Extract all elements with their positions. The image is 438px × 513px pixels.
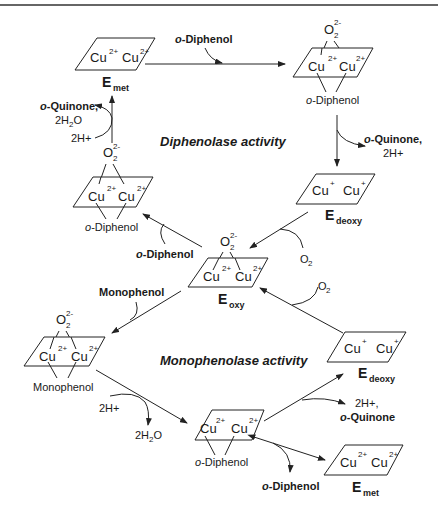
svg-text:Cu: Cu xyxy=(90,50,107,65)
svg-text:2+: 2+ xyxy=(58,344,67,353)
svg-text:2+: 2+ xyxy=(328,54,337,63)
svg-text:2H2O: 2H2O xyxy=(55,114,83,129)
reagent-o-quinone-left: o-Quinone, 2H2O xyxy=(40,100,98,129)
svg-text:Cu: Cu xyxy=(71,349,88,364)
svg-text:Cu: Cu xyxy=(88,189,105,204)
arrow-curve-o-diphenol-out-low xyxy=(273,443,290,472)
svg-text:E: E xyxy=(352,479,361,495)
svg-text:Cu: Cu xyxy=(371,455,388,470)
svg-text:2+: 2+ xyxy=(222,264,231,273)
svg-text:2+: 2+ xyxy=(89,344,98,353)
reagent-o-quinone-right: o-Quinone, 2H+ xyxy=(364,133,422,159)
svg-text:2+: 2+ xyxy=(140,47,149,56)
svg-text:2H+,: 2H+, xyxy=(355,397,379,409)
svg-text:+: + xyxy=(362,337,367,346)
svg-text:deoxy: deoxy xyxy=(369,374,395,384)
svg-text:Cu: Cu xyxy=(344,341,361,356)
svg-text:+: + xyxy=(394,337,399,346)
svg-text:E: E xyxy=(102,74,111,90)
svg-text:E: E xyxy=(325,207,334,223)
svg-text:Cu: Cu xyxy=(231,421,248,436)
svg-text:+: + xyxy=(330,179,335,188)
svg-text:E: E xyxy=(218,291,227,307)
svg-text:Cu: Cu xyxy=(203,269,220,284)
svg-text:2-: 2- xyxy=(113,142,120,151)
svg-text:Cu: Cu xyxy=(340,455,357,470)
svg-text:O: O xyxy=(220,234,230,249)
reagent-2h-low: 2H+ xyxy=(99,402,120,414)
svg-text:2+: 2+ xyxy=(253,264,262,273)
svg-text:o-Diphenol: o-Diphenol xyxy=(262,480,319,492)
svg-text:2-: 2- xyxy=(230,231,237,240)
arrow-curve-o2-in-mid xyxy=(280,229,303,248)
svg-text:deoxy: deoxy xyxy=(336,216,362,226)
svg-text:2-: 2- xyxy=(334,18,341,27)
svg-text:2+: 2+ xyxy=(358,450,367,459)
svg-text:2+: 2+ xyxy=(389,450,398,459)
svg-text:o-Diphenol: o-Diphenol xyxy=(175,33,232,45)
svg-text:o-Quinone: o-Quinone xyxy=(340,411,395,423)
svg-text:2+: 2+ xyxy=(137,184,146,193)
svg-text:Cu: Cu xyxy=(339,59,356,74)
state-oxy-diphenol-top: O 2 2- Cu 2+ Cu 2+ o-Diphenol xyxy=(293,18,373,106)
svg-text:Cu: Cu xyxy=(235,269,252,284)
svg-text:o-Diphenol: o-Diphenol xyxy=(306,94,359,106)
state-oxy-diphenol-left: O 2 2- Cu 2+ Cu 2+ o-Diphenol xyxy=(73,142,153,233)
state-e-deoxy-mid: Cu + Cu + E deoxy xyxy=(296,174,375,226)
svg-text:O: O xyxy=(56,312,66,327)
reagent-h-quinone-low: 2H+, o-Quinone xyxy=(340,397,395,423)
svg-text:2-: 2- xyxy=(66,309,73,318)
svg-text:Cu: Cu xyxy=(308,59,325,74)
svg-text:o-Diphenol: o-Diphenol xyxy=(85,221,138,233)
svg-text:Cu: Cu xyxy=(39,349,56,364)
svg-text:met: met xyxy=(113,83,129,93)
svg-text:o-Diphenol: o-Diphenol xyxy=(195,456,248,468)
svg-text:2: 2 xyxy=(113,154,118,163)
arrow-deoxy-low-to-oxy xyxy=(260,288,343,333)
arrow-deoxy-to-oxy xyxy=(250,212,308,248)
svg-text:Monophenol: Monophenol xyxy=(33,381,94,393)
arrow-oxy-monophenol-to-met-diphenol xyxy=(96,370,187,423)
svg-text:2: 2 xyxy=(308,259,313,268)
title-diphenolase-activity: Diphenolase activity xyxy=(160,134,286,149)
arrow-curve-monophenol-in xyxy=(130,302,137,320)
arrow-oxy-to-oxy-diphenol-left xyxy=(143,214,202,247)
arrow-met-diphenol-met-equilibrium xyxy=(254,437,325,460)
svg-text:oxy: oxy xyxy=(229,300,245,310)
arrow-curve-o-diphenol-in-left xyxy=(161,224,165,244)
title-monophenolase-activity: Monophenolase activity xyxy=(160,353,308,368)
reagent-2h-left: 2H+ xyxy=(71,132,92,144)
reagent-o-diphenol-left: o-Diphenol xyxy=(136,248,193,260)
state-e-oxy-center: O 2 2- Cu 2+ Cu 2+ E oxy xyxy=(188,231,268,310)
svg-text:Cu: Cu xyxy=(122,50,139,65)
svg-text:E: E xyxy=(358,365,367,381)
reagent-o-diphenol-top: o-Diphenol xyxy=(175,33,232,45)
state-met-diphenol-low: Cu 2+ Cu 2+ o-Diphenol xyxy=(195,410,264,468)
reagent-o2-low: O 2 xyxy=(318,280,331,295)
reagent-o-diphenol-low: o-Diphenol xyxy=(262,480,319,492)
svg-text:Cu: Cu xyxy=(200,421,217,436)
svg-text:2+: 2+ xyxy=(249,416,258,425)
svg-text:2H+: 2H+ xyxy=(383,147,404,159)
arrow-curve-o-quinone-out xyxy=(337,130,365,146)
svg-text:2+: 2+ xyxy=(356,54,365,63)
svg-text:2H2O: 2H2O xyxy=(135,429,163,444)
svg-text:Cu: Cu xyxy=(376,341,393,356)
arrow-curve-quinone-out-low xyxy=(302,399,345,404)
svg-text:met: met xyxy=(363,488,379,498)
svg-text:2: 2 xyxy=(66,321,71,330)
svg-text:o-Quinone,: o-Quinone, xyxy=(364,133,422,145)
state-e-met-low: Cu 2+ Cu 2+ E met xyxy=(324,445,403,498)
svg-text:2: 2 xyxy=(334,31,339,40)
state-oxy-monophenol: O 2 2- Cu 2+ Cu 2+ Monophenol xyxy=(24,309,105,393)
arrow-curve-o2-in-low xyxy=(292,287,318,305)
svg-text:Cu: Cu xyxy=(312,183,329,198)
reagent-h2o-low: 2H2O xyxy=(135,429,163,444)
tyrosinase-cycle-diagram: Cu 2+ Cu 2+ E met o-Diphenol O 2 2- Cu 2… xyxy=(0,0,438,513)
reagent-monophenol: Monophenol xyxy=(99,286,164,298)
svg-text:2+: 2+ xyxy=(109,47,118,56)
state-e-met-top: Cu 2+ Cu 2+ E met xyxy=(75,38,155,93)
svg-text:2: 2 xyxy=(230,243,235,252)
svg-text:2: 2 xyxy=(326,286,331,295)
svg-text:o-Diphenol: o-Diphenol xyxy=(136,248,193,260)
